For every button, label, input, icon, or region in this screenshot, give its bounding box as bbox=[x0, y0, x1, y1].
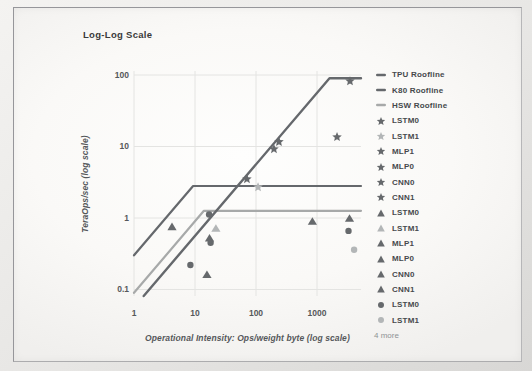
triangle-legend-icon bbox=[374, 237, 388, 249]
line-legend-icon bbox=[374, 84, 388, 96]
line-legend-icon bbox=[374, 69, 388, 81]
star-legend-icon bbox=[374, 161, 388, 173]
legend-item-triangle-mlp1: MLP1 bbox=[374, 236, 447, 251]
star-legend-icon bbox=[374, 176, 388, 188]
x-tick-label: 1000 bbox=[308, 308, 327, 318]
legend-item-label: MLP0 bbox=[392, 254, 414, 263]
marker-circle-hsw-mlp1 bbox=[206, 211, 212, 217]
marker-circle-hsw-cnn0 bbox=[345, 228, 351, 234]
marker-star-tpu-cnn1 bbox=[332, 132, 342, 141]
legend-item-line-tpu-roofline: TPU Roofline bbox=[374, 67, 447, 82]
star-legend-icon bbox=[374, 145, 388, 157]
marker-triangle-k80-mlp0 bbox=[202, 271, 211, 279]
roofline-k80 bbox=[134, 186, 361, 255]
y-tick-label: 0.1 bbox=[117, 284, 129, 294]
legend-item-label: CNN1 bbox=[392, 285, 415, 294]
x-tick-label: 1 bbox=[132, 308, 137, 318]
legend-item-star-mlp1: MLP1 bbox=[374, 144, 447, 159]
marker-triangle-k80-lstm0 bbox=[167, 223, 176, 231]
marker-triangle-k80-lstm1 bbox=[211, 224, 220, 232]
legend-item-label: LSTM1 bbox=[392, 132, 419, 141]
triangle-legend-icon bbox=[374, 253, 388, 265]
x-tick-label: 100 bbox=[249, 308, 263, 318]
legend-item-triangle-mlp0: MLP0 bbox=[374, 251, 447, 266]
legend-item-label: K80 Roofline bbox=[392, 86, 443, 95]
legend-item-star-cnn1: CNN1 bbox=[374, 190, 447, 205]
chart-legend: TPU RooflineK80 RooflineHSW RooflineLSTM… bbox=[374, 67, 447, 340]
star-legend-icon bbox=[374, 115, 388, 127]
line-legend-icon bbox=[374, 99, 388, 111]
marker-circle-hsw-lstm1 bbox=[351, 247, 357, 253]
legend-item-label: LSTM0 bbox=[392, 300, 419, 309]
y-tick-label: 10 bbox=[120, 141, 130, 151]
legend-item-circle-lstm1: LSTM1 bbox=[374, 313, 447, 328]
y-tick-label: 100 bbox=[115, 70, 129, 80]
legend-item-label: LSTM0 bbox=[392, 208, 419, 217]
triangle-legend-icon bbox=[374, 268, 388, 280]
legend-item-label: CNN0 bbox=[392, 178, 415, 187]
roofline-plot-area: 11010010000.1110100Operational Intensity… bbox=[0, 0, 532, 371]
roofline-hsw bbox=[134, 211, 361, 293]
legend-item-star-cnn0: CNN0 bbox=[374, 174, 447, 189]
legend-item-star-lstm1: LSTM1 bbox=[374, 128, 447, 143]
legend-item-label: LSTM0 bbox=[392, 116, 419, 125]
legend-item-triangle-cnn0: CNN0 bbox=[374, 266, 447, 281]
legend-item-line-k80-roofline: K80 Roofline bbox=[374, 82, 447, 97]
legend-item-star-lstm0: LSTM0 bbox=[374, 113, 447, 128]
photographed-chart-page: { "figure": { "title": "Log-Log Scale", … bbox=[0, 0, 532, 371]
legend-item-label: CNN1 bbox=[392, 193, 415, 202]
legend-more-label: 4 more bbox=[374, 331, 447, 340]
legend-item-triangle-lstm1: LSTM1 bbox=[374, 220, 447, 235]
y-axis-label: TeraOps/sec (log scale) bbox=[80, 135, 90, 232]
star-legend-icon bbox=[374, 191, 388, 203]
legend-item-triangle-cnn1: CNN1 bbox=[374, 282, 447, 297]
legend-item-circle-lstm0: LSTM0 bbox=[374, 297, 447, 312]
legend-item-label: TPU Roofline bbox=[392, 70, 445, 79]
marker-star-tpu-lstm0 bbox=[242, 174, 252, 183]
circle-legend-icon bbox=[374, 299, 388, 311]
roofline-tpu bbox=[144, 78, 361, 296]
x-tick-label: 10 bbox=[190, 308, 200, 318]
legend-item-star-mlp0: MLP0 bbox=[374, 159, 447, 174]
legend-item-line-hsw-roofline: HSW Roofline bbox=[374, 98, 447, 113]
legend-item-label: LSTM1 bbox=[392, 224, 419, 233]
star-legend-icon bbox=[374, 130, 388, 142]
legend-item-label: MLP1 bbox=[392, 147, 414, 156]
marker-circle-hsw-lstm0 bbox=[187, 262, 193, 268]
legend-item-label: LSTM1 bbox=[392, 316, 419, 325]
legend-item-label: MLP0 bbox=[392, 162, 414, 171]
marker-circle-hsw-mlp0 bbox=[207, 240, 213, 246]
marker-star-tpu-lstm1 bbox=[253, 182, 263, 191]
legend-item-label: HSW Roofline bbox=[392, 101, 447, 110]
triangle-legend-icon bbox=[374, 207, 388, 219]
x-axis-label: Operational Intensity: Ops/weight byte (… bbox=[145, 333, 350, 343]
circle-legend-icon bbox=[374, 314, 388, 326]
legend-item-label: CNN0 bbox=[392, 270, 415, 279]
legend-item-triangle-lstm0: LSTM0 bbox=[374, 205, 447, 220]
marker-star-tpu-mlp0 bbox=[274, 137, 284, 146]
legend-item-label: MLP1 bbox=[392, 239, 414, 248]
triangle-legend-icon bbox=[374, 283, 388, 295]
triangle-legend-icon bbox=[374, 222, 388, 234]
y-tick-label: 1 bbox=[124, 213, 129, 223]
